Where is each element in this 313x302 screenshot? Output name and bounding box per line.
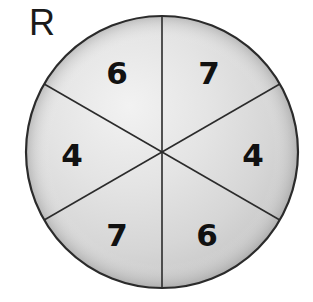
sector-label-right: 4 — [242, 137, 264, 173]
sector-label-top-right: 7 — [198, 55, 220, 91]
sector-label-bottom-right: 6 — [196, 217, 218, 253]
sector-label-top-left: 6 — [106, 55, 128, 91]
spinner-diagram: 6 7 4 4 7 6 R — [0, 0, 313, 302]
figure-corner-label: R — [29, 2, 55, 43]
sector-label-bottom-left: 7 — [106, 217, 128, 253]
sector-label-left: 4 — [61, 137, 83, 173]
figure-root: 6 7 4 4 7 6 R — [0, 0, 313, 302]
